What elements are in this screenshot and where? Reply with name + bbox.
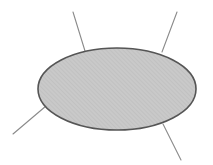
- hatched-ellipse: [38, 48, 196, 130]
- diagram-canvas: [0, 0, 213, 165]
- diagram-svg: [0, 0, 213, 165]
